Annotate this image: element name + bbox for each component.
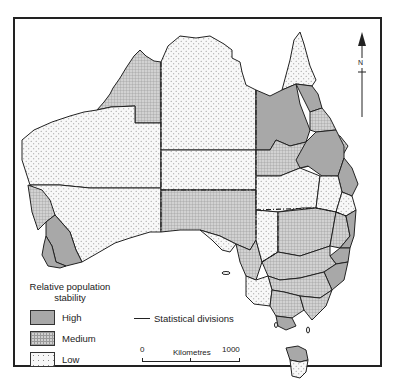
region-tas-south — [290, 360, 308, 378]
scale-units: Kilometres — [173, 348, 211, 357]
legend-item-low: Low — [20, 349, 140, 370]
high-swatch — [30, 310, 55, 325]
statistical-divisions-key: Statistical divisions — [134, 313, 234, 324]
region-tas-north — [286, 346, 308, 362]
legend: Relative population stability High Mediu… — [20, 281, 140, 370]
north-arrow: N — [355, 32, 369, 117]
legend-title: Relative population stability — [20, 281, 120, 303]
scale-max: 1000 — [222, 345, 240, 354]
north-arrow-icon — [355, 32, 369, 117]
region-nt-north — [161, 36, 256, 150]
low-swatch — [30, 352, 55, 367]
legend-label-low: Low — [62, 354, 79, 365]
island-king — [275, 323, 278, 328]
legend-item-medium: Medium — [20, 328, 140, 349]
division-line-icon — [134, 318, 150, 319]
region-qld-cape — [282, 32, 316, 90]
legend-item-high: High — [20, 307, 140, 328]
legend-label-medium: Medium — [62, 333, 96, 344]
island-kangaroo — [222, 272, 230, 275]
island-flinders — [307, 327, 310, 333]
legend-label-high: High — [62, 312, 82, 323]
medium-swatch — [30, 331, 55, 346]
region-vic-melbourne — [276, 316, 296, 330]
north-label: N — [358, 59, 363, 66]
scale-line — [142, 358, 240, 362]
divisions-label: Statistical divisions — [154, 313, 234, 324]
scale-mid-tick — [190, 358, 191, 361]
scale-zero: 0 — [140, 345, 144, 354]
region-nt-south — [161, 150, 256, 190]
region-vic-west — [246, 276, 272, 306]
region-qld-mackay — [310, 108, 336, 132]
scale-bar: 0 Kilometres 1000 — [140, 345, 244, 365]
